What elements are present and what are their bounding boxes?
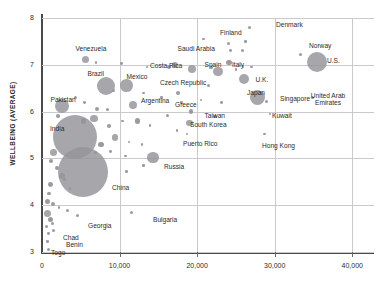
point-label-kuwait: Kuwait xyxy=(272,112,292,119)
data-point xyxy=(226,60,232,66)
point-label-japan: Japan xyxy=(247,89,265,96)
x-tick-label: 40,000 xyxy=(322,262,376,269)
data-point xyxy=(124,155,127,158)
data-point xyxy=(142,164,145,167)
data-point-u-s- xyxy=(307,52,327,72)
gridline-horizontal xyxy=(42,205,374,206)
data-point xyxy=(176,129,179,132)
data-point xyxy=(47,232,50,235)
data-point xyxy=(229,49,232,52)
data-point xyxy=(135,118,140,123)
data-point xyxy=(121,120,124,123)
point-label-pakistan: Pakistan xyxy=(51,96,76,103)
data-point xyxy=(47,192,50,195)
data-point-russia xyxy=(147,152,158,163)
y-tick-label: 5 xyxy=(14,154,34,161)
data-point xyxy=(250,66,253,69)
data-point xyxy=(220,101,223,104)
data-point xyxy=(146,66,148,68)
gridline-horizontal xyxy=(42,252,374,253)
point-label-italy: Italy xyxy=(232,61,244,68)
data-point-puerto-rico xyxy=(186,133,189,136)
data-point-benin xyxy=(52,229,55,232)
data-point-mexico xyxy=(120,79,133,92)
data-point xyxy=(45,225,48,228)
data-point xyxy=(112,134,118,140)
data-point xyxy=(83,101,86,104)
data-point-chad xyxy=(51,222,54,225)
data-point xyxy=(46,240,49,243)
point-label-greece: Greece xyxy=(175,101,197,108)
data-point-china xyxy=(58,147,108,197)
point-label-china: China xyxy=(112,184,129,191)
x-tick-label: 30,000 xyxy=(245,262,305,269)
point-label-finland: Finland xyxy=(220,29,242,36)
data-point xyxy=(95,61,97,63)
data-point xyxy=(241,49,244,52)
y-tick-label: 4 xyxy=(14,201,34,208)
data-point-brazil xyxy=(97,77,115,95)
data-point xyxy=(56,114,60,118)
data-point xyxy=(98,142,103,147)
data-point-greece xyxy=(189,109,193,113)
data-point-spain xyxy=(188,65,196,73)
y-tick-label: 3 xyxy=(14,248,34,255)
point-label-hong-kong: Hong Kong xyxy=(262,142,295,149)
data-point-georgia xyxy=(76,214,79,217)
point-label-brazil: Brazil xyxy=(88,70,105,77)
data-point-costa-rica xyxy=(120,62,123,65)
y-tick-label: 6 xyxy=(14,108,34,115)
point-label-singapore: Singapore xyxy=(280,95,310,102)
data-point-singapore xyxy=(265,100,268,103)
point-label-mexico: Mexico xyxy=(127,73,148,80)
point-label-taiwan: Taiwan xyxy=(205,112,226,119)
point-label-south-korea: South Korea xyxy=(190,121,227,128)
point-label-costa-rica: Costa Rica xyxy=(150,62,182,69)
data-point xyxy=(58,206,61,209)
point-label-russia: Russia xyxy=(164,163,184,170)
data-point xyxy=(202,38,205,41)
point-label-puerto-rico: Puerto Rico xyxy=(183,140,217,147)
data-point xyxy=(48,217,53,222)
point-label-venezuela: Venezuela xyxy=(76,45,107,52)
gridline-vertical xyxy=(275,18,276,252)
point-label-united-arab-emirates: United Arab Emirates xyxy=(309,92,347,107)
y-tick-label: 7 xyxy=(14,61,34,68)
data-point-u-k- xyxy=(239,74,249,84)
data-point-venezuela xyxy=(82,56,89,63)
point-label-denmark: Denmark xyxy=(276,21,303,28)
data-point-bulgaria xyxy=(130,211,133,214)
data-point xyxy=(107,124,111,128)
point-label-spain: Spain xyxy=(205,61,222,68)
point-label-togo: Togo xyxy=(51,249,65,256)
data-point xyxy=(49,159,53,163)
x-tick-label: 20,000 xyxy=(167,262,227,269)
x-tick-mark xyxy=(120,252,121,257)
data-point xyxy=(166,114,169,117)
y-axis-title: WELLBEING (AVERAGE) xyxy=(9,49,16,199)
wellbeing-gdp-bubble-chart: WELLBEING (AVERAGE) 876543 010,00020,000… xyxy=(0,0,376,285)
gridline-vertical xyxy=(197,18,198,252)
data-point xyxy=(142,92,145,95)
data-point-finland xyxy=(227,42,230,45)
x-tick-mark xyxy=(197,252,198,257)
data-point-argentina xyxy=(129,101,137,109)
data-point xyxy=(90,115,97,122)
plot-area xyxy=(42,18,374,252)
point-label-argentina: Argentina xyxy=(141,97,169,104)
data-point xyxy=(45,199,50,204)
point-label-czech-republic: Czech Republic xyxy=(160,79,206,86)
gridline-horizontal xyxy=(42,18,374,19)
gridline-vertical xyxy=(120,18,121,252)
point-label-india: India xyxy=(50,125,64,132)
point-label-georgia: Georgia xyxy=(88,222,111,229)
x-tick-label: 0 xyxy=(12,262,72,269)
x-tick-mark xyxy=(275,252,276,257)
point-label-saudi-arabia: Saudi Arabia xyxy=(178,45,215,52)
data-point xyxy=(125,170,128,173)
data-point xyxy=(149,124,152,127)
data-point xyxy=(244,40,247,43)
data-point xyxy=(141,143,144,146)
x-tick-label: 10,000 xyxy=(90,262,150,269)
point-label-u-s-: U.S. xyxy=(327,57,340,64)
